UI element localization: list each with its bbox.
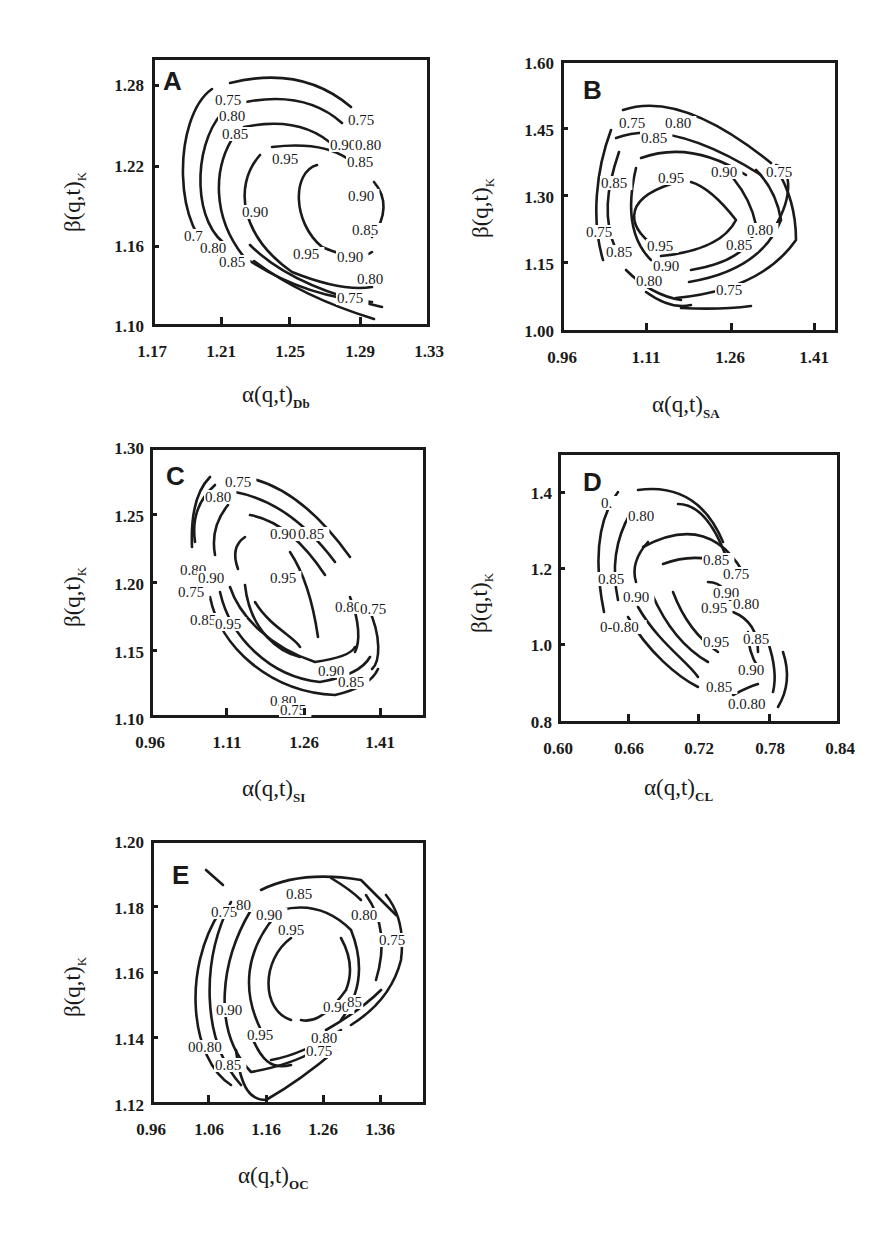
xtick-label: 1.16: [242, 1121, 290, 1138]
ytick-mark: [561, 261, 568, 264]
ytick-label: 1.14: [96, 1031, 144, 1048]
contour-level-label: 0.80: [355, 137, 381, 153]
xtick-mark: [265, 1095, 268, 1102]
contour-level-label: 0.80: [636, 273, 662, 289]
xtick-label: 1.26: [280, 734, 328, 751]
ytick-label: 1.28: [96, 77, 144, 94]
ytick-label: 1.18: [96, 900, 144, 917]
contour-level-label: 0.90: [330, 137, 356, 153]
contour-level-label: 0.95: [272, 151, 298, 167]
y-axis-label-e: β(q,t)K: [60, 957, 90, 1017]
y-axis-label-a: β(q,t)K: [60, 172, 90, 232]
contour-level-label: 0.85: [286, 886, 312, 902]
contour-plot-b: 0.750.800.850.750.900.950.850.750.800.85…: [561, 60, 838, 333]
ytick-label: 1.00: [506, 323, 554, 340]
ytick-mark: [152, 245, 159, 248]
contour-level-label: 80: [236, 897, 251, 913]
contour-level-label: 0.85: [726, 237, 752, 253]
xtick-label: 1.25: [266, 343, 314, 360]
contour-level-label: 0.85: [598, 571, 624, 587]
contour-level-label: 0.90: [653, 258, 679, 274]
ytick-label: 1.0: [504, 637, 552, 654]
contour-level-label: 0.80: [357, 271, 383, 287]
ytick-mark: [558, 491, 565, 494]
contour-level-label: 0.85: [601, 175, 627, 191]
xtick-mark: [697, 714, 700, 721]
xtick-label: 0.96: [126, 734, 174, 751]
contour-line: [331, 878, 361, 900]
ytick-mark: [561, 127, 568, 130]
ytick-mark: [152, 165, 159, 168]
xtick-label: 0.72: [675, 740, 723, 757]
ytick-label: 1.16: [96, 238, 144, 255]
ytick-label: 1.4: [504, 485, 552, 502]
contour-level-label: 85: [347, 994, 362, 1010]
contour-line: [244, 124, 335, 147]
contour-level-label: 0.95: [278, 922, 304, 938]
contour-line: [290, 552, 318, 637]
contour-level-label: 0.90: [216, 1002, 242, 1018]
xtick-label: 0.96: [538, 349, 586, 366]
contour-level-label: 0.90: [348, 188, 374, 204]
contour-level-label: 0.90: [711, 164, 737, 180]
contour-level-label: 0.75: [348, 112, 374, 128]
ytick-label: 1.10: [96, 318, 144, 335]
ytick-mark: [151, 971, 158, 974]
x-axis-label-e: α(q,t)OC: [238, 1163, 309, 1193]
xtick-mark: [220, 317, 223, 324]
ytick-label: 1.20: [96, 576, 144, 593]
xtick-mark: [303, 708, 306, 715]
contour-level-label: 0.80: [665, 115, 691, 131]
contour-level-label: 0.95: [247, 1027, 273, 1043]
xtick-label: 1.41: [356, 734, 404, 751]
xtick-mark: [207, 1095, 210, 1102]
xtick-label: 1.11: [622, 349, 670, 366]
contour-line: [250, 515, 325, 575]
contour-level-label: 0.75: [306, 1043, 332, 1059]
contour-level-label: 0.80: [628, 508, 654, 524]
ytick-label: 1.12: [96, 1097, 144, 1114]
contour-line: [245, 585, 300, 657]
contour-level-label: 0.75: [215, 92, 241, 108]
contour-level-label: 0.85: [352, 222, 378, 238]
ytick-label: 1.20: [96, 834, 144, 851]
y-axis-label-b: β(q,t)K: [468, 178, 498, 238]
contour-line: [299, 165, 372, 256]
contour-plot-a: 0.750.800.850.750.900.800.950.850.900.90…: [152, 57, 430, 327]
contour-level-label: 0.75: [225, 474, 251, 490]
contour-level-label: 0.85: [641, 130, 667, 146]
contour-line: [646, 292, 691, 306]
contour-level-label: 0.85: [706, 679, 732, 695]
contour-level-label: 0.75: [178, 584, 204, 600]
contour-level-label: 0.80: [335, 599, 361, 615]
xtick-label: 0.60: [534, 740, 582, 757]
contour-line: [652, 594, 708, 662]
contour-level-label: 0.85: [219, 254, 245, 270]
x-axis-label-a: α(q,t)Db: [242, 382, 310, 412]
contour-level-label: 0.: [601, 495, 612, 511]
figure-caption-cropped: [0, 1228, 892, 1238]
ytick-label: 1.16: [96, 965, 144, 982]
xtick-mark: [379, 1095, 382, 1102]
ytick-mark: [151, 905, 158, 908]
y-axis-label-c: β(q,t)K: [60, 567, 90, 627]
contour-plot-e: 0.75800.850.900.950.800.750.900.90850.95…: [151, 840, 426, 1105]
xtick-mark: [730, 323, 733, 330]
xtick-mark: [379, 708, 382, 715]
contour-line: [615, 514, 630, 600]
ytick-label: 1.25: [96, 508, 144, 525]
ytick-label: 1.2: [504, 561, 552, 578]
contour-line: [635, 542, 649, 582]
xtick-mark: [322, 1095, 325, 1102]
xtick-label: 1.06: [185, 1121, 233, 1138]
ytick-label: 1.30: [506, 189, 554, 206]
contour-level-label: 0.95: [703, 634, 729, 650]
contour-level-label: 0.75: [619, 115, 645, 131]
ytick-mark: [150, 649, 157, 652]
contour-level-label: 0.95: [701, 600, 727, 616]
contour-level-label: 0.80: [733, 596, 759, 612]
ytick-label: 1.10: [96, 711, 144, 728]
contour-level-label: 0.75: [586, 224, 612, 240]
contour-plot-c: 0.750.800.900.850.800.900.950.750.800.75…: [150, 447, 426, 718]
contour-level-label: 0.90: [242, 204, 268, 220]
